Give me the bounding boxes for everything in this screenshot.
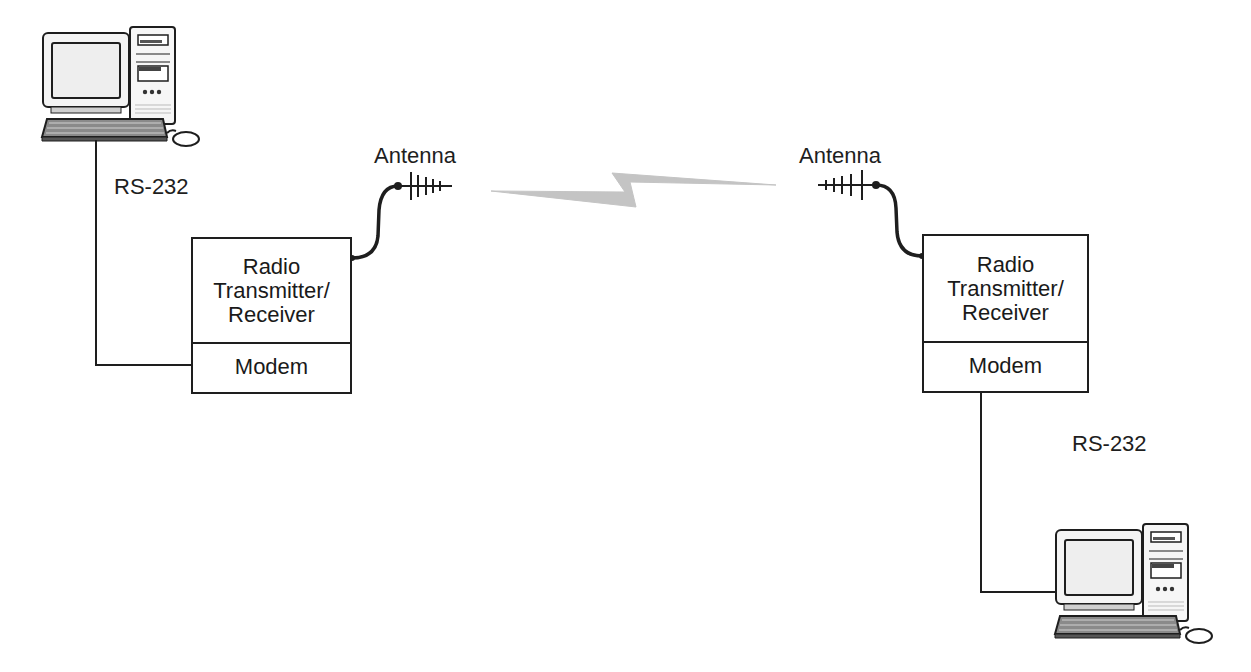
computer-left-icon <box>42 27 199 146</box>
antenna-cable-right <box>876 185 922 256</box>
modem-right: Modem <box>924 341 1087 391</box>
radio-label-line3: Receiver <box>962 301 1049 325</box>
rs232-label-left: RS-232 <box>114 176 189 198</box>
modem-label: Modem <box>969 353 1042 379</box>
radio-modem-unit-right: Radio Transmitter/ Receiver Modem <box>922 234 1089 393</box>
modem-label: Modem <box>235 354 308 380</box>
radio-transceiver-left: Radio Transmitter/ Receiver <box>193 239 350 344</box>
radio-label-line2: Transmitter/ <box>947 277 1064 301</box>
antenna-cable-left <box>352 186 398 258</box>
radio-transceiver-right: Radio Transmitter/ Receiver <box>924 236 1087 343</box>
wireless-link-icon <box>491 173 776 207</box>
radio-label-line1: Radio <box>243 255 300 279</box>
antenna-left-icon <box>398 172 452 200</box>
computer-right-icon <box>1055 524 1212 643</box>
rs232-label-right: RS-232 <box>1072 433 1147 455</box>
antenna-right-icon <box>818 170 876 200</box>
modem-left: Modem <box>193 342 350 392</box>
antenna-label-right: Antenna <box>799 145 881 167</box>
radio-label-line1: Radio <box>977 253 1034 277</box>
radio-label-line3: Receiver <box>228 303 315 327</box>
radio-modem-unit-left: Radio Transmitter/ Receiver Modem <box>191 237 352 394</box>
rs232-cable-right <box>981 392 1056 592</box>
antenna-label-left: Antenna <box>374 145 456 167</box>
radio-label-line2: Transmitter/ <box>213 279 330 303</box>
